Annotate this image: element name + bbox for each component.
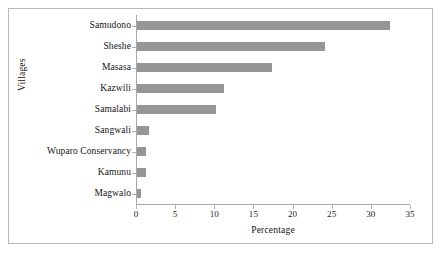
category-label: Samudono bbox=[90, 20, 131, 31]
y-axis-tick bbox=[132, 131, 136, 132]
bar bbox=[137, 63, 272, 72]
figure-container: SamudonoShesheMasasaKazwiliSamalabiSangw… bbox=[0, 0, 443, 262]
category-label: Magwalo bbox=[94, 188, 131, 199]
x-axis-title: Percentage bbox=[136, 225, 410, 235]
bar bbox=[137, 189, 141, 198]
y-axis-tick bbox=[132, 68, 136, 69]
y-axis-tick bbox=[132, 173, 136, 174]
x-axis-tick-label: 0 bbox=[121, 209, 151, 220]
x-axis-tick-label: 10 bbox=[199, 209, 229, 220]
bar bbox=[137, 84, 224, 93]
category-label: Sheshe bbox=[103, 41, 131, 52]
chart-frame: SamudonoShesheMasasaKazwiliSamalabiSangw… bbox=[8, 8, 433, 244]
x-axis-tick-label: 25 bbox=[317, 209, 347, 220]
y-axis-tick bbox=[132, 110, 136, 111]
category-label: Samalabi bbox=[95, 104, 131, 115]
y-axis-tick bbox=[132, 47, 136, 48]
category-label: Wuparo Conservancy bbox=[47, 146, 131, 157]
category-label: Sangwali bbox=[95, 125, 131, 136]
y-axis-tick bbox=[132, 89, 136, 90]
bar bbox=[137, 21, 390, 30]
bar bbox=[137, 168, 146, 177]
bar bbox=[137, 147, 146, 156]
bar bbox=[137, 42, 325, 51]
y-axis-tick bbox=[132, 152, 136, 153]
bar bbox=[137, 105, 216, 114]
x-axis-line bbox=[136, 204, 410, 205]
plot-area: SamudonoShesheMasasaKazwiliSamalabiSangw… bbox=[136, 15, 410, 204]
x-axis-tick-label: 20 bbox=[278, 209, 308, 220]
y-axis-tick bbox=[132, 194, 136, 195]
y-axis-tick bbox=[132, 26, 136, 27]
category-label: Masasa bbox=[102, 62, 131, 73]
category-label: Kamunu bbox=[98, 167, 131, 178]
x-axis-tick-label: 35 bbox=[395, 209, 425, 220]
bar bbox=[137, 126, 149, 135]
x-axis-tick-label: 30 bbox=[356, 209, 386, 220]
x-axis-tick-label: 5 bbox=[160, 209, 190, 220]
category-label: Kazwili bbox=[100, 83, 131, 94]
x-axis-tick-label: 15 bbox=[238, 209, 268, 220]
y-axis-title: Villages bbox=[17, 58, 27, 91]
